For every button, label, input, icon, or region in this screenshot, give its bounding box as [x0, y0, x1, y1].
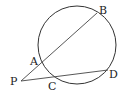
circle — [38, 6, 116, 84]
secant-pab — [21, 13, 97, 81]
secant-diagram: B A P C D — [0, 0, 122, 97]
label-b: B — [99, 4, 107, 17]
label-c: C — [48, 80, 56, 93]
label-d: D — [109, 68, 118, 81]
label-p: P — [10, 75, 18, 88]
label-a: A — [29, 55, 39, 68]
